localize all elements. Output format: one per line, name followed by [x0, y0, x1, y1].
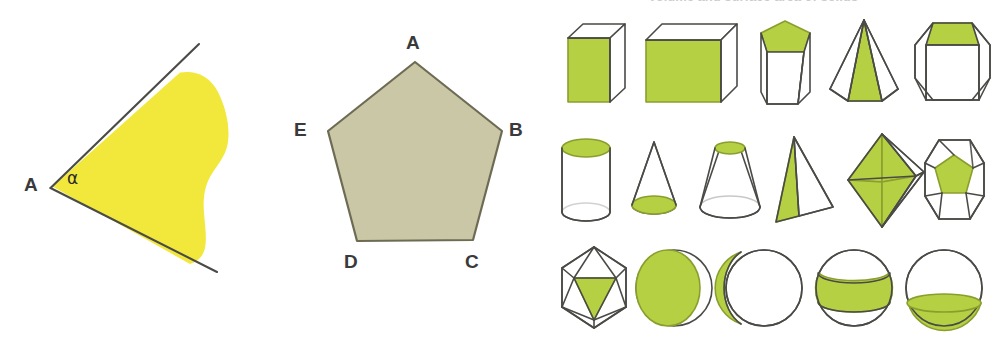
cube-solid — [568, 24, 625, 102]
pentagon-vertex-label-b: B — [509, 120, 523, 139]
icosahedron-solid — [562, 247, 626, 328]
angle-figure-alpha-label: α — [67, 170, 78, 187]
hexagonal-frustum-solid — [915, 23, 990, 100]
dodecahedron-solid — [925, 140, 984, 219]
octahedron-solid — [848, 134, 924, 227]
angle-region-figure: A α — [0, 0, 270, 339]
pentagon-vertex-label-e: E — [294, 120, 307, 139]
solids-grid-figure — [548, 0, 997, 339]
pentagon-fill-shape — [328, 62, 502, 241]
pentagon-vertex-label-d: D — [344, 252, 358, 271]
sphere-zone — [816, 250, 893, 326]
cylinder-solid — [562, 139, 610, 221]
tetrahedron-solid — [776, 137, 833, 222]
sphere-great-circle — [636, 250, 712, 326]
pentagon-vertex-label-a: A — [406, 33, 420, 52]
pentagon-vertex-label-c: C — [465, 252, 479, 271]
sphere-lune — [715, 250, 802, 326]
angle-figure-vertex-label-a: A — [24, 175, 38, 194]
figure-sheet: Volume and surface area of solids A α A … — [0, 0, 997, 339]
hexagonal-pyramid-solid — [830, 20, 898, 101]
truncated-cone-solid — [700, 142, 760, 218]
sphere-cap — [906, 250, 982, 330]
pentagon-figure: A B E C D — [280, 0, 530, 339]
cone-solid — [632, 142, 676, 214]
pentagonal-prism-solid — [761, 21, 810, 104]
cuboid-solid — [646, 24, 737, 102]
